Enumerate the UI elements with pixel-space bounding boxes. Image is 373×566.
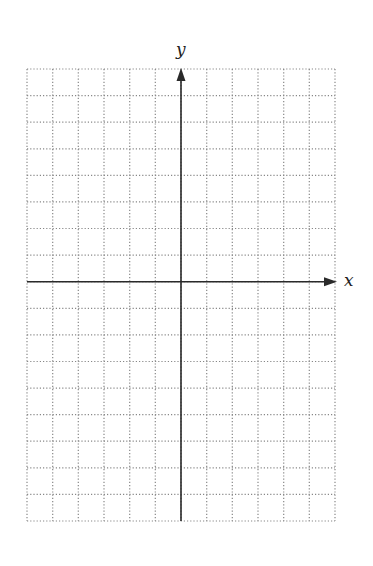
x-axis-arrow-icon <box>324 277 337 286</box>
x-axis-label: x <box>344 272 354 289</box>
axes <box>27 68 337 521</box>
y-axis-label: y <box>176 41 186 58</box>
coordinate-grid <box>0 0 373 566</box>
y-axis-arrow-icon <box>177 68 186 81</box>
